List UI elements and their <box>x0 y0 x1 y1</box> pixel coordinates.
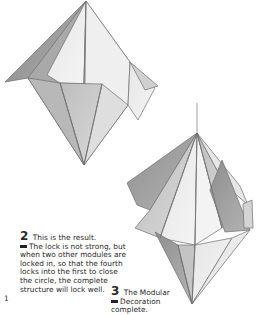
step-marker-icon <box>111 300 118 303</box>
step-marker-icon <box>20 245 27 248</box>
step-number: 2 <box>20 229 28 243</box>
step-3-caption: 3 The Modular Decoration complete. <box>111 286 191 315</box>
figure-3-modular-decoration <box>127 103 253 304</box>
page-number: 1 <box>4 294 9 303</box>
figure-2-origami-result <box>5 1 158 165</box>
step-number: 3 <box>111 284 119 298</box>
step-text: Decoration complete. <box>111 297 161 315</box>
